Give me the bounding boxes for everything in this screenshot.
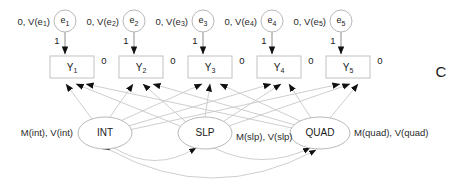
- indicator-nodes-group: Y1 0 Y2 0 Y3 0 Y4: [50, 55, 383, 78]
- residual-node-e4[interactable]: e4 0, V(e4) 1: [225, 10, 283, 54]
- loading-path-quad-y2: [153, 84, 295, 125]
- latent-node-int[interactable]: INT: [78, 117, 132, 149]
- latent-node-slp[interactable]: SLP: [178, 117, 232, 149]
- latent-label-int: INT: [97, 127, 113, 138]
- latent-nodes-group: INT SLP QUAD: [78, 117, 350, 149]
- panel-corner-label: C: [436, 63, 447, 80]
- indicator-intercept-label-y1: 0: [101, 55, 106, 66]
- residual-param-label-e2: 0, V(e2): [87, 16, 119, 27]
- indicator-node-y4[interactable]: Y4 0: [257, 55, 314, 78]
- indicator-intercept-label-y2: 0: [170, 55, 175, 66]
- indicator-node-y3[interactable]: Y3 0: [188, 55, 245, 78]
- residual-param-label-e3: 0, V(e3): [156, 16, 188, 27]
- residual-node-e5[interactable]: e5 0, V(e5) 1: [294, 10, 352, 54]
- latent-label-slp: SLP: [196, 127, 215, 138]
- path-diagram-canvas: INT SLP QUAD M(int), V(int) M(slp), V(sl…: [0, 0, 473, 193]
- latent-param-label-int: M(int), V(int): [21, 127, 73, 138]
- loading-path-slp-y2: [143, 84, 186, 122]
- residual-param-label-e4: 0, V(e4): [225, 16, 257, 27]
- residual-node-e3[interactable]: e3 0, V(e3) 1: [156, 10, 214, 54]
- loading-path-quad-y4: [289, 84, 311, 118]
- residual-param-label-e5: 0, V(e5): [294, 16, 326, 27]
- residual-loading-label-e1: 1: [54, 35, 59, 46]
- indicator-node-y2[interactable]: Y2 0: [119, 55, 176, 78]
- residual-node-e2[interactable]: e2 0, V(e2) 1: [87, 10, 145, 54]
- indicator-intercept-label-y3: 0: [239, 55, 244, 66]
- residual-loading-label-e4: 1: [261, 35, 266, 46]
- residual-nodes-group: e1 0, V(e1) 1 e2 0, V(e2) 1 e3: [18, 10, 352, 54]
- covariance-arcs-group: [110, 148, 316, 178]
- residual-loading-label-e2: 1: [123, 35, 128, 46]
- residual-loading-label-e3: 1: [192, 35, 197, 46]
- latent-param-label-slp: M(slp), V(slp): [236, 131, 292, 142]
- indicator-node-y1[interactable]: Y1 0: [50, 55, 107, 78]
- covariance-arc-slp-quad: [214, 148, 310, 160]
- loading-path-int-y2: [110, 84, 133, 117]
- indicator-intercept-label-y4: 0: [308, 55, 313, 66]
- latent-label-quad: QUAD: [306, 127, 335, 138]
- covariance-arc-int-quad: [110, 150, 316, 178]
- residual-node-e1[interactable]: e1 0, V(e1) 1: [18, 10, 76, 54]
- residual-param-label-e1: 0, V(e1): [18, 16, 50, 27]
- residual-loading-label-e5: 1: [330, 35, 335, 46]
- latent-param-label-quad: M(quad), V(quad): [354, 127, 428, 138]
- indicator-node-y5[interactable]: Y5 0: [326, 55, 383, 78]
- latent-node-quad[interactable]: QUAD: [290, 117, 350, 149]
- indicator-intercept-label-y5: 0: [377, 55, 382, 66]
- path-diagram-container: INT SLP QUAD M(int), V(int) M(slp), V(sl…: [0, 0, 473, 193]
